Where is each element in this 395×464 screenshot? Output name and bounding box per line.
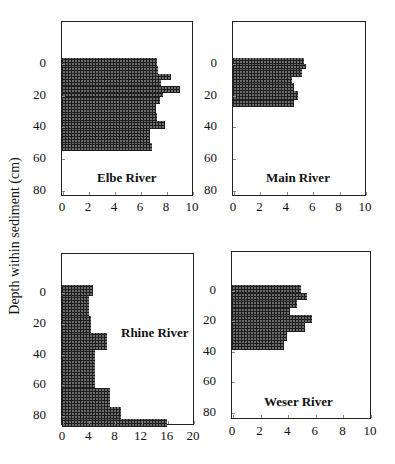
bar [232,308,290,316]
y-tick-label: 40 [24,119,46,132]
bar [62,388,110,406]
x-tick-label: 2 [248,424,272,437]
y-tick-mark [62,355,65,356]
y-tick-mark [232,413,235,414]
bar [62,129,150,143]
y-tick-label: 0 [24,56,46,69]
x-tick-label: 8 [154,200,178,213]
y-tick-label: 40 [24,347,46,360]
river-label-weser: Weser River [264,394,333,410]
x-tick-mark [287,192,288,195]
y-tick-label: 60 [24,151,46,164]
y-tick-mark [62,416,65,417]
y-tick-mark [233,64,236,65]
bar [62,296,89,316]
x-tick-label: 4 [274,200,298,213]
bar [233,69,302,77]
x-tick-label: 10 [180,200,204,213]
bar [62,58,157,66]
x-tick-label: 12 [129,429,153,442]
y-tick-mark [62,159,65,160]
river-label-main: Main River [266,170,330,186]
x-tick-mark [343,415,344,418]
x-tick-mark [89,421,90,424]
x-tick-label: 10 [353,200,377,213]
x-tick-mark [194,421,195,424]
y-tick-label: 0 [24,285,46,298]
y-tick-mark [62,293,65,294]
x-tick-mark [316,415,317,418]
x-tick-label: 2 [247,200,271,213]
x-tick-mark [234,192,235,195]
y-tick-label: 20 [195,88,217,101]
bar [232,300,297,308]
y-axis-label: Depth within sediment (cm) [7,151,23,321]
x-tick-mark [89,192,90,195]
x-tick-mark [340,192,341,195]
x-tick-label: 8 [330,424,354,437]
bar [62,66,158,74]
y-tick-mark [232,291,235,292]
y-tick-label: 20 [194,313,216,326]
y-tick-label: 20 [24,88,46,101]
x-tick-mark [115,421,116,424]
x-tick-mark [142,421,143,424]
river-label-elbe: Elbe River [97,170,157,186]
bar [62,285,93,296]
y-tick-mark [232,321,235,322]
bar [232,341,284,350]
x-tick-label: 0 [220,424,244,437]
x-tick-label: 8 [327,200,351,213]
x-tick-label: 0 [50,200,74,213]
y-tick-label: 80 [24,408,46,421]
x-tick-label: 4 [76,429,100,442]
x-tick-label: 6 [303,424,327,437]
x-tick-label: 10 [358,424,382,437]
y-tick-label: 40 [195,119,217,132]
bar [233,91,298,101]
x-tick-label: 0 [221,200,245,213]
x-tick-label: 6 [128,200,152,213]
bar [232,285,301,293]
y-tick-label: 80 [24,183,46,196]
bar [62,104,156,114]
y-tick-mark [62,324,65,325]
y-tick-mark [62,64,65,65]
bar [232,323,305,332]
x-tick-mark [167,192,168,195]
y-tick-mark [233,159,236,160]
bar [233,100,294,106]
y-tick-mark [233,96,236,97]
x-tick-mark [260,192,261,195]
y-tick-mark [62,96,65,97]
x-tick-mark [193,192,194,195]
bar [233,83,294,91]
y-tick-label: 0 [195,56,217,69]
y-tick-label: 80 [195,183,217,196]
x-tick-mark [371,415,372,418]
river-label-rhine: Rhine River [121,325,189,341]
x-tick-label: 2 [76,200,100,213]
y-tick-label: 0 [194,283,216,296]
bar [62,143,152,151]
bar [232,293,307,301]
y-tick-label: 20 [24,316,46,329]
y-tick-label: 40 [194,344,216,357]
y-tick-mark [62,385,65,386]
x-tick-mark [168,421,169,424]
x-tick-label: 4 [275,424,299,437]
bar [62,316,91,333]
bar [62,113,157,121]
x-tick-label: 16 [155,429,179,442]
bar [62,333,107,350]
x-tick-mark [63,192,64,195]
bar [62,121,165,129]
x-tick-label: 6 [300,200,324,213]
bar [62,350,95,389]
y-tick-mark [62,127,65,128]
x-tick-label: 0 [50,429,74,442]
bar [232,315,312,323]
x-tick-mark [288,415,289,418]
y-tick-label: 80 [194,405,216,418]
x-tick-mark [115,192,116,195]
